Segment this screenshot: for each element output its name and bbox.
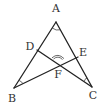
geometry-diagram: A B C D E F <box>0 0 102 106</box>
label-point-f: F <box>54 68 62 81</box>
label-point-c: C <box>89 89 97 102</box>
label-point-a: A <box>51 2 61 15</box>
label-point-b: B <box>8 92 16 105</box>
angle-mark-b <box>19 80 23 84</box>
angle-mark-f-inner <box>54 57 63 59</box>
label-point-d: D <box>26 40 35 53</box>
label-point-e: E <box>79 46 87 59</box>
